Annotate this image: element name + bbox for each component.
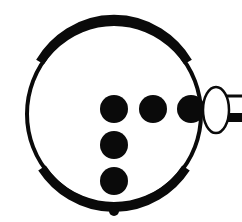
dot-icon — [177, 95, 205, 123]
circle-dot-symbol — [0, 0, 242, 222]
dot-icon — [100, 131, 128, 159]
dot-icon — [100, 95, 128, 123]
dot-icon — [100, 167, 128, 195]
dot-icon — [139, 95, 167, 123]
diagram-canvas — [0, 0, 242, 222]
ellipse-connector — [203, 87, 229, 133]
small-dot-icon — [109, 206, 119, 216]
